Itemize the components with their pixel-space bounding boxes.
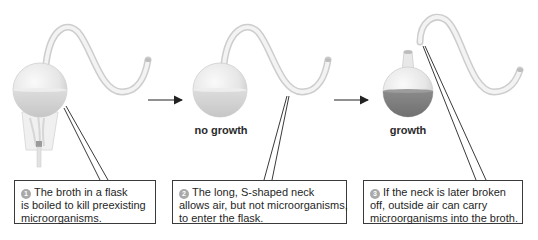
callout-line: to enter the flask. <box>179 212 340 225</box>
callout-line: allows air, but not microorganisms, <box>179 199 340 212</box>
flame-icon <box>22 112 58 167</box>
callout-line: microorganisms into the broth. <box>370 212 516 225</box>
callout-step-3: 3If the neck is later broken off, outsid… <box>363 180 523 224</box>
step-number-badge: 2 <box>179 189 189 199</box>
callout-line: 1The broth in a flask <box>21 186 149 199</box>
callout-line: off, outside air can carry <box>370 199 516 212</box>
callout-line: 3If the neck is later broken <box>370 186 516 199</box>
callout-line: is boiled to kill preexisting <box>21 199 149 212</box>
flask-stage-3 <box>380 17 523 121</box>
callout-step-2: 2The long, S-shaped neck allows air, but… <box>172 180 347 224</box>
step-number-badge: 1 <box>21 189 31 199</box>
state-label-stage-3: growth <box>383 124 433 136</box>
callout-step-1: 1The broth in a flask is boiled to kill … <box>14 180 156 224</box>
diagram-canvas: no growth growth 1The broth in a flask i… <box>0 0 538 240</box>
step-number-badge: 3 <box>370 189 380 199</box>
state-label-stage-2: no growth <box>193 124 249 136</box>
callout-line: 2The long, S-shaped neck <box>179 186 340 199</box>
flask-stage-1 <box>10 27 151 167</box>
callout-line: microorganisms. <box>21 212 149 225</box>
flask-stage-2 <box>190 27 331 120</box>
